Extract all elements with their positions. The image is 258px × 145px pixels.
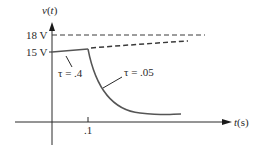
y-tick-label-15v: 15 V xyxy=(26,46,48,58)
tau-005-label: τ = .05 xyxy=(124,66,154,78)
tau-04-leader xyxy=(66,56,72,67)
y-axis-label: v(t) xyxy=(42,4,58,17)
tau-04-label: τ = .4 xyxy=(58,67,83,79)
charging-segment xyxy=(52,49,88,52)
tau-005-leader xyxy=(103,77,122,88)
y-axis-arrow-icon xyxy=(49,22,55,31)
x-axis-label: t(s) xyxy=(234,116,249,129)
charging-continuation xyxy=(91,41,188,48)
x-tick-label: .1 xyxy=(84,124,92,136)
voltage-response-diagram: v(t) 18 V 15 V .1 t(s) τ = .4 τ = .05 xyxy=(0,0,258,145)
discharge-curve xyxy=(88,49,181,115)
x-axis-arrow-icon xyxy=(222,119,232,125)
y-tick-label-18v: 18 V xyxy=(26,29,48,41)
